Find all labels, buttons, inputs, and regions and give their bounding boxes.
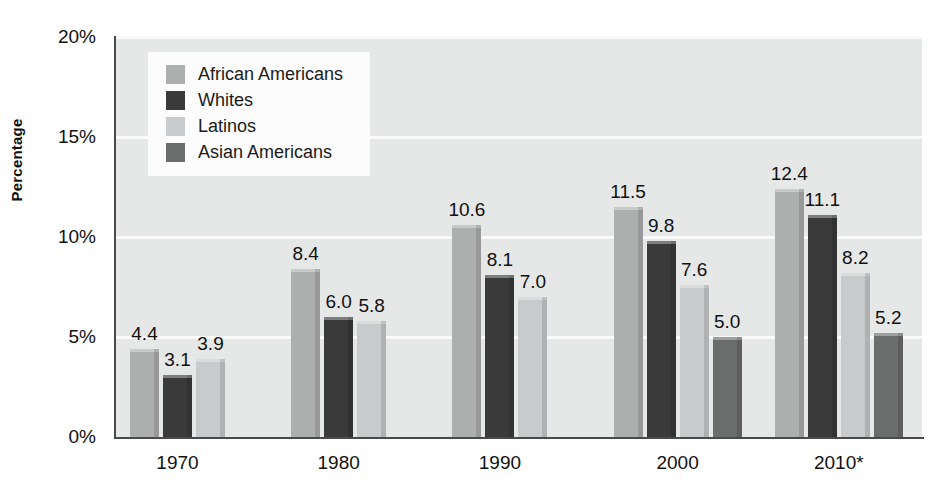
bar	[713, 337, 742, 437]
bar-value-label: 11.5	[610, 181, 646, 203]
legend-swatch-icon	[166, 117, 185, 136]
bar-value-label: 7.6	[681, 259, 707, 281]
bar	[614, 207, 643, 437]
bar-value-label: 8.1	[487, 249, 513, 271]
bar-shading	[154, 349, 159, 437]
x-tick-label: 1990	[479, 452, 521, 474]
bar-shading	[381, 321, 386, 437]
y-axis-ticks: 0%5%10%15%20%	[0, 0, 106, 501]
bar-shading	[671, 241, 676, 437]
legend: African AmericansWhitesLatinosAsian Amer…	[148, 52, 370, 176]
legend-label: Asian Americans	[198, 143, 332, 161]
bar	[130, 349, 159, 437]
legend-label: Whites	[198, 91, 253, 109]
bar-value-label: 12.4	[771, 163, 808, 185]
bar	[874, 333, 903, 437]
bar-value-label: 8.4	[292, 243, 318, 265]
legend-item: Latinos	[148, 113, 370, 139]
bar-shading	[220, 359, 225, 437]
bar	[324, 317, 353, 437]
bar	[196, 359, 225, 437]
bar-value-label: 3.1	[164, 349, 190, 371]
legend-item: Asian Americans	[148, 139, 370, 165]
legend-swatch-icon	[166, 65, 185, 84]
bar-shading	[832, 215, 837, 437]
bar	[485, 275, 514, 437]
bar	[518, 297, 547, 437]
legend-item: African Americans	[148, 61, 370, 87]
bar-shading	[476, 225, 481, 437]
x-tick-label: 2010*	[814, 452, 864, 474]
bar-value-label: 9.8	[648, 215, 674, 237]
bar-shading	[315, 269, 320, 437]
bar-value-label: 7.0	[520, 271, 546, 293]
bar-value-label: 5.0	[714, 311, 740, 333]
legend-label: African Americans	[198, 65, 343, 83]
legend-item: Whites	[148, 87, 370, 113]
bar-shading	[898, 333, 903, 437]
bar-shading	[187, 375, 192, 437]
x-tick-label: 1970	[156, 452, 198, 474]
gridline	[116, 36, 922, 39]
bar-shading	[638, 207, 643, 437]
bar-value-label: 5.2	[875, 307, 901, 329]
bar	[647, 241, 676, 437]
bar-shading	[509, 275, 514, 437]
bar-chart-figure: Percentage 0%5%10%15%20% 197019801990200…	[0, 0, 951, 501]
bar	[452, 225, 481, 437]
legend-label: Latinos	[198, 117, 256, 135]
y-tick-label: 0%	[0, 426, 106, 448]
bar-shading	[542, 297, 547, 437]
bar-value-label: 11.1	[805, 189, 841, 211]
bar	[680, 285, 709, 437]
legend-swatch-icon	[166, 143, 185, 162]
bar-shading	[737, 337, 742, 437]
x-tick-label: 1980	[318, 452, 360, 474]
bar-shading	[348, 317, 353, 437]
bar-value-label: 8.2	[842, 247, 868, 269]
y-tick-label: 5%	[0, 326, 106, 348]
x-tick-label: 2000	[656, 452, 698, 474]
legend-swatch-icon	[166, 91, 185, 110]
bar-value-label: 6.0	[325, 291, 351, 313]
bar	[808, 215, 837, 437]
bar	[357, 321, 386, 437]
bar	[163, 375, 192, 437]
bar	[841, 273, 870, 437]
bar	[291, 269, 320, 437]
bar-shading	[704, 285, 709, 437]
bar-value-label: 5.8	[358, 295, 384, 317]
bar-shading	[865, 273, 870, 437]
x-axis-line	[114, 437, 924, 439]
bar-value-label: 4.4	[131, 323, 157, 345]
bar-value-label: 3.9	[197, 333, 223, 355]
y-tick-label: 10%	[0, 226, 106, 248]
bar-shading	[799, 189, 804, 437]
y-tick-label: 20%	[0, 26, 106, 48]
y-tick-label: 15%	[0, 126, 106, 148]
bar-value-label: 10.6	[448, 199, 485, 221]
bar	[775, 189, 804, 437]
